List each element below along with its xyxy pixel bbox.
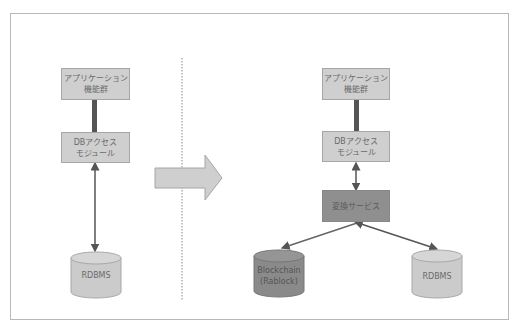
- left-db-box-line1: DBアクセス: [74, 137, 118, 148]
- conversion-service-label: 変換サービス: [332, 201, 380, 212]
- left-app-functions-box: アプリケーション 機能群: [61, 68, 130, 100]
- right-db-access-box: DBアクセス モジュール: [322, 131, 390, 162]
- conversion-to-blockchain-arrow: [285, 223, 357, 247]
- right-db-box-line1: DBアクセス: [334, 136, 378, 147]
- left-db-access-box: DBアクセス モジュール: [61, 132, 130, 163]
- left-thick-connector: [92, 100, 97, 132]
- blockchain-label-line2: (Rablock): [254, 276, 304, 287]
- conversion-to-rdbms-arrow: [358, 223, 434, 248]
- left-db-box-line2: モジュール: [76, 148, 115, 159]
- transition-arrow-icon: [155, 155, 222, 200]
- left-rdbms-label: RDBMS: [71, 270, 121, 281]
- right-rdbms-label: RDBMS: [412, 271, 462, 282]
- right-app-box-line2: 機能群: [344, 84, 368, 95]
- right-app-box-line1: アプリケーション: [324, 73, 388, 84]
- left-app-box-line1: アプリケーション: [64, 73, 128, 84]
- right-app-functions-box: アプリケーション 機能群: [322, 68, 390, 100]
- conversion-service-box: 変換サービス: [322, 190, 390, 222]
- blockchain-label: Blockchain (Rablock): [254, 265, 304, 287]
- blockchain-label-line1: Blockchain: [254, 265, 304, 276]
- right-db-box-line2: モジュール: [337, 147, 376, 158]
- left-app-box-line2: 機能群: [84, 84, 108, 95]
- right-thick-connector: [354, 100, 359, 131]
